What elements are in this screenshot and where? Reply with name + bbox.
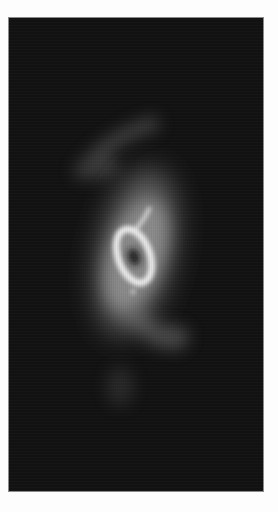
nebula-image bbox=[9, 18, 263, 491]
page bbox=[0, 0, 278, 512]
astronomical-image-frame bbox=[8, 17, 264, 492]
